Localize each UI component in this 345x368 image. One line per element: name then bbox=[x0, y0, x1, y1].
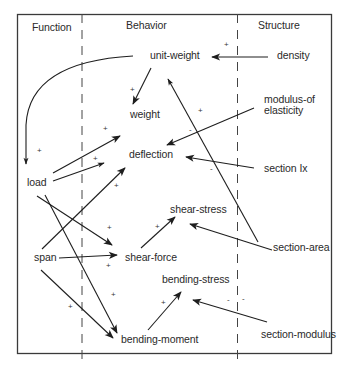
sign-shear-force-shear-stress: + bbox=[155, 223, 160, 231]
edge-span-shear-force bbox=[59, 255, 117, 258]
frame-border bbox=[18, 15, 332, 354]
sign-section-ix-deflection: - bbox=[210, 165, 213, 173]
edge-unit-weight-weight bbox=[133, 68, 151, 104]
sign-section-area-unit-weight: + bbox=[198, 107, 203, 115]
sign-bending-moment-bending-stress: + bbox=[161, 299, 166, 307]
node-density: density bbox=[277, 50, 310, 61]
sign-span-bending-moment: + bbox=[68, 303, 73, 311]
sign-unit-weight-weight: + bbox=[130, 86, 135, 94]
sign-section-modulus-bending-stress-b: - bbox=[242, 295, 245, 303]
edge-unit-weight-load bbox=[26, 56, 133, 164]
node-shear-force: shear-force bbox=[125, 252, 177, 263]
node-section-modulus: section-modulus bbox=[261, 329, 336, 340]
node-unit-weight: unit-weight bbox=[150, 50, 200, 61]
column-header-structure: Structure bbox=[258, 20, 300, 31]
edge-section-ix-deflection bbox=[186, 157, 254, 168]
sign-modulus-deflection: - bbox=[189, 126, 192, 134]
sign-density-unit-weight: + bbox=[224, 41, 229, 49]
node-shear-stress: shear-stress bbox=[170, 204, 227, 215]
node-bending-stress: bending-stress bbox=[162, 274, 229, 285]
edge-section-modulus-bending-stress bbox=[193, 300, 267, 322]
node-modulus-line2: elasticity bbox=[264, 105, 303, 116]
node-load: load bbox=[27, 177, 46, 188]
sign-unit-weight-load: + bbox=[37, 147, 42, 155]
node-section-ix: section Ix bbox=[264, 163, 307, 174]
sign-load-weight: + bbox=[103, 125, 108, 133]
sign-span-deflection: + bbox=[114, 182, 119, 190]
column-header-function: Function bbox=[32, 22, 71, 33]
sign-section-modulus-bending-stress-a: - bbox=[227, 296, 230, 304]
edge-section-area-unit-weight bbox=[168, 79, 258, 242]
sign-load-deflection: + bbox=[93, 155, 98, 163]
node-section-area: section-area bbox=[273, 242, 330, 253]
sign-load-shear-force: + bbox=[107, 224, 112, 232]
node-bending-moment: bending-moment bbox=[121, 334, 198, 345]
node-span: span bbox=[34, 252, 56, 263]
sign-span-shear-force: + bbox=[106, 262, 111, 270]
edge-modulus-deflection bbox=[167, 108, 254, 145]
edge-section-area-shear-stress bbox=[190, 224, 272, 250]
edge-load-weight bbox=[53, 136, 120, 173]
edge-load-deflection bbox=[53, 163, 104, 181]
column-header-behavior: Behavior bbox=[126, 20, 167, 31]
node-weight: weight bbox=[130, 109, 160, 120]
edge-load-shear-force bbox=[37, 196, 112, 245]
sign-load-bending-moment: + bbox=[111, 291, 116, 299]
causal-diagram: Function Behavior Structure unit-weight … bbox=[0, 0, 345, 368]
node-deflection: deflection bbox=[129, 149, 173, 160]
